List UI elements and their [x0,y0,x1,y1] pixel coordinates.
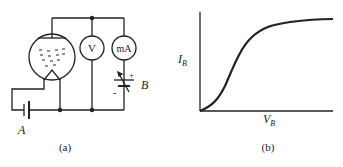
caption-a: (a) [59,141,72,154]
battery-b-minus: - [113,87,116,98]
junction-dots [58,16,94,112]
ib-vb-graph [200,12,333,111]
ib-curve [200,19,333,111]
caption-b: (b) [262,141,275,154]
voltmeter-label: V [88,42,96,54]
vacuum-tube-icon [29,34,75,80]
battery-b-label: B [141,78,149,92]
milliammeter-label: mA [117,43,133,54]
electron-cloud [39,49,65,66]
arrow-head-icon [118,72,122,76]
x-axis-label: VB [263,112,275,128]
circuit-diagram [12,18,136,119]
y-axis-label: IB [177,52,187,68]
figure: V mA + - B A (a) IB VB (b) [0,0,343,167]
battery-a-label: A [17,123,26,137]
filament [44,70,60,80]
battery-b-plus: + [129,70,134,80]
